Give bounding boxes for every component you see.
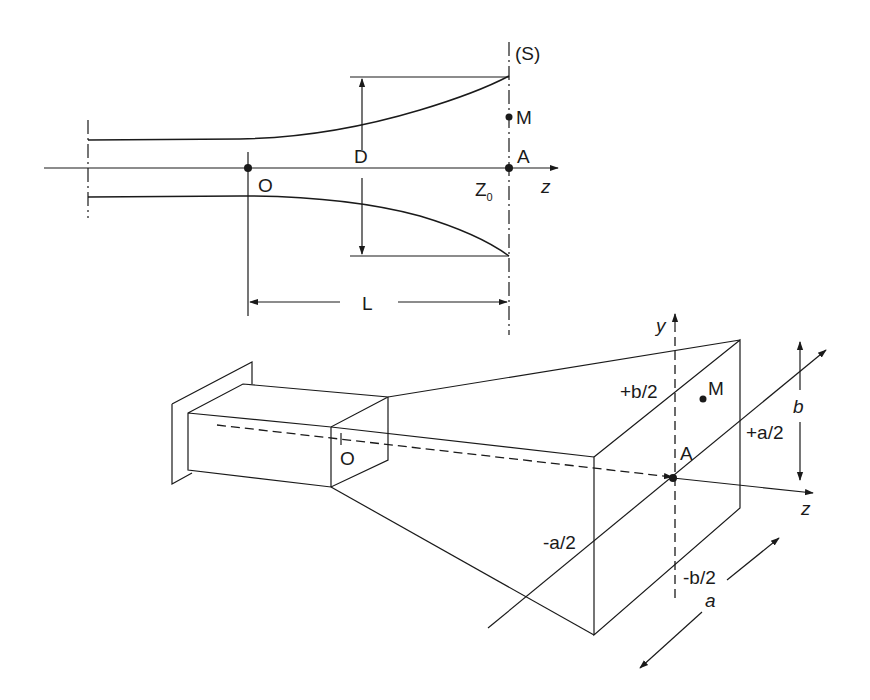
horn-antenna-diagram: D O L M A (S) z Z0 bbox=[0, 0, 870, 700]
label-plus-b-half: +b/2 bbox=[620, 381, 658, 402]
label-o-top: O bbox=[258, 175, 273, 196]
label-a-dim: a bbox=[705, 590, 716, 611]
label-a-bottom: A bbox=[680, 443, 693, 464]
label-m-bottom: M bbox=[708, 378, 724, 399]
label-d: D bbox=[354, 146, 368, 167]
label-z-bottom: z bbox=[800, 498, 811, 519]
a-dimension-arrow-up bbox=[727, 538, 779, 580]
label-z0: Z0 bbox=[475, 179, 493, 203]
label-surface-s: (S) bbox=[515, 43, 540, 64]
point-m-top bbox=[506, 114, 513, 121]
waveguide-box bbox=[188, 384, 388, 487]
label-z0-sub: 0 bbox=[487, 191, 493, 203]
label-m-top: M bbox=[516, 107, 532, 128]
label-o-bottom: O bbox=[340, 448, 355, 469]
label-b: b bbox=[793, 396, 804, 417]
label-z0-main: Z bbox=[475, 179, 487, 200]
label-y: y bbox=[654, 315, 667, 336]
horn-top-edge bbox=[388, 340, 740, 397]
label-plus-a-half: +a/2 bbox=[746, 422, 784, 443]
label-l: L bbox=[362, 293, 373, 314]
flange-plate bbox=[172, 362, 252, 484]
point-a-bottom bbox=[669, 474, 677, 482]
horn-bottom-edge bbox=[331, 487, 594, 635]
label-minus-a-half: -a/2 bbox=[543, 532, 576, 553]
point-a-top bbox=[505, 164, 513, 172]
upper-wall-curve bbox=[88, 76, 509, 140]
label-a-top: A bbox=[517, 146, 530, 167]
lower-wall-curve bbox=[88, 196, 509, 256]
point-m-bottom bbox=[700, 396, 707, 403]
perspective-horn-view: O y z A M b a +b/2 +a/2 -a/2 -b/2 bbox=[172, 314, 826, 668]
a-dimension-arrow-down bbox=[640, 612, 702, 668]
label-minus-b-half: -b/2 bbox=[683, 567, 716, 588]
label-z-top: z bbox=[540, 176, 551, 197]
dashed-guide-axis bbox=[217, 425, 672, 477]
z-axis-bottom bbox=[673, 478, 813, 493]
origin-point bbox=[244, 164, 252, 172]
top-section-view: D O L M A (S) z Z0 bbox=[44, 42, 558, 335]
